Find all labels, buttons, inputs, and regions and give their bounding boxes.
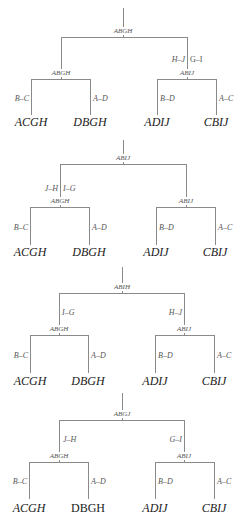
leaf-stem-3 <box>155 462 156 499</box>
root-branch <box>59 420 185 421</box>
right-branch <box>155 462 215 463</box>
leaf-label-1: ACGH <box>13 502 46 515</box>
leaf-label-4: CBIJ <box>202 502 227 515</box>
left-branch <box>29 462 89 463</box>
right-node-label: ABIJ <box>176 452 192 460</box>
left-node-label: ABGH <box>49 452 70 460</box>
leaf-edge-label-2: A–D <box>91 477 106 486</box>
tree-4: ABGJ J–H G–I ABGH ABIJ B–C A–D B–D A–C A… <box>0 0 248 523</box>
leaf-edge-label-4: A–C <box>217 477 231 486</box>
leaf-stem-1 <box>29 462 30 499</box>
leaf-stem-4 <box>214 462 215 499</box>
leaf-edge-label-3: B–D <box>158 477 173 486</box>
leaf-edge-label-1: B–C <box>13 477 27 486</box>
leaf-label-3: ADIJ <box>142 502 167 515</box>
leaf-label-2: DBGH <box>71 502 105 515</box>
right-edge-label: G–I <box>170 435 182 444</box>
root-node-label: ABGJ <box>113 410 132 418</box>
leaf-stem-2 <box>88 462 89 499</box>
left-edge-label: J–H <box>63 435 76 444</box>
